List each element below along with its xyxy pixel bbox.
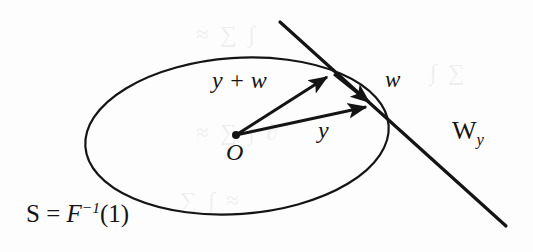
level-set-symbol: S <box>26 200 40 227</box>
tangent-space-subscript: y <box>477 130 484 149</box>
tangent-space-label: Wy <box>452 118 484 149</box>
vector-sum-label: y + w <box>212 68 267 92</box>
figure-canvas: ≈ ∑ ∫ ≈ ∑ ∫ ∂ ∑ ∫ ≈ ∫ ∑ S = F−1(1) y + w… <box>0 0 533 252</box>
level-set-map: F <box>67 200 82 227</box>
origin-point-dot <box>232 131 240 139</box>
level-set-argument: (1) <box>100 200 129 227</box>
vector-w-label: w <box>385 68 400 91</box>
level-set-equals: = <box>40 200 67 227</box>
tangent-space-base: W <box>452 116 477 145</box>
level-set-exponent: −1 <box>82 199 100 216</box>
origin-label: O <box>226 140 243 164</box>
vector-y-label: y <box>318 118 329 142</box>
level-set-label: S = F−1(1) <box>26 200 129 226</box>
